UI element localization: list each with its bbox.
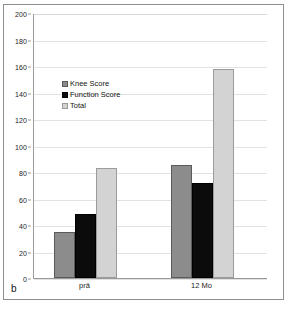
y-axis-tick-mark <box>28 226 31 227</box>
legend-label: Total <box>70 101 86 110</box>
bar-function-score-prä <box>75 214 96 278</box>
bar-total-12-mo <box>213 69 234 278</box>
bar-knee-score-12-mo <box>171 165 192 278</box>
bar-total-prä <box>96 168 117 278</box>
chart-legend: Knee ScoreFunction ScoreTotal <box>62 79 120 110</box>
y-axis-tick-label: 20 <box>19 249 27 256</box>
legend-label: Function Score <box>70 90 120 99</box>
x-axis-label-12-mo: 12 Mo <box>191 281 212 290</box>
y-axis-tick-mark <box>28 67 31 68</box>
legend-swatch-icon <box>62 92 68 98</box>
y-axis-tick-label: 40 <box>19 223 27 230</box>
x-axis-label-prä: prä <box>79 281 90 290</box>
y-axis-tick-label: 80 <box>19 170 27 177</box>
y-axis-tick-mark <box>28 146 31 147</box>
y-axis-tick-label: 180 <box>15 37 27 44</box>
y-axis-tick-label: 140 <box>15 90 27 97</box>
y-axis-tick-label: 200 <box>15 11 27 18</box>
y-axis-tick-mark <box>28 199 31 200</box>
bar-function-score-12-mo <box>192 183 213 278</box>
y-axis-tick-label: 120 <box>15 117 27 124</box>
legend-swatch-icon <box>62 103 68 109</box>
x-axis-category-labels: prä12 Mo <box>33 281 267 297</box>
bar-knee-score-prä <box>54 232 75 278</box>
y-axis-tick-mark <box>28 252 31 253</box>
figure-panel: 020406080100120140160180200 prä12 Mo Kne… <box>0 0 290 317</box>
y-axis-tick-label: 100 <box>15 143 27 150</box>
y-axis-tick-mark <box>28 40 31 41</box>
y-axis-tick-mark <box>28 14 31 15</box>
legend-item: Function Score <box>62 90 120 99</box>
y-axis-ticks: 020406080100120140160180200 <box>0 14 31 279</box>
panel-letter: b <box>11 283 17 295</box>
y-axis-tick-label: 160 <box>15 64 27 71</box>
caption-strip <box>4 309 276 317</box>
legend-swatch-icon <box>62 81 68 87</box>
y-axis-tick-mark <box>28 173 31 174</box>
legend-label: Knee Score <box>70 79 109 88</box>
y-axis-tick-mark <box>28 120 31 121</box>
legend-item: Total <box>62 101 120 110</box>
plot-area <box>33 14 267 279</box>
legend-item: Knee Score <box>62 79 120 88</box>
y-axis-tick-mark <box>28 279 31 280</box>
y-axis-tick-label: 60 <box>19 196 27 203</box>
y-axis-tick-label: 0 <box>23 276 27 283</box>
bar-series-container <box>34 14 267 278</box>
y-axis-tick-mark <box>28 93 31 94</box>
